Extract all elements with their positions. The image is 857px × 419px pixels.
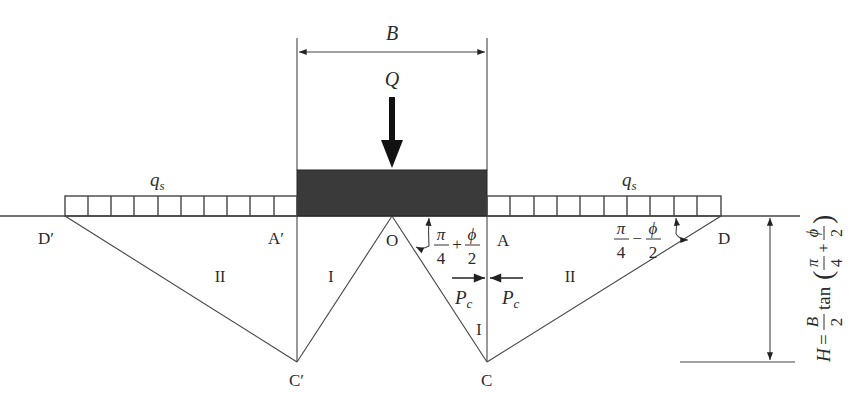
svg-text:H: H bbox=[813, 347, 834, 363]
zone-I-right: I bbox=[476, 321, 481, 338]
label-Pc-left: Pc bbox=[454, 287, 473, 311]
label-B: B bbox=[386, 22, 398, 44]
height-formula: H = B 2 tan ( π 4 + ϕ 2 ) bbox=[803, 215, 846, 363]
angle-marker-passive bbox=[676, 218, 688, 240]
svg-text:π: π bbox=[804, 258, 821, 267]
svg-text:ϕ: ϕ bbox=[649, 219, 658, 238]
zone-II-right: II bbox=[565, 268, 576, 285]
zone-I-left: I bbox=[328, 268, 333, 285]
angle-label-wedge: π 4 + ϕ 2 bbox=[434, 225, 480, 268]
label-C-prime: C′ bbox=[289, 371, 304, 390]
label-qs-left: qs bbox=[150, 169, 165, 193]
label-qs-right: qs bbox=[622, 169, 637, 193]
svg-text:2: 2 bbox=[828, 229, 845, 237]
dimension-H bbox=[680, 218, 795, 362]
surcharge-left: qs bbox=[65, 169, 297, 216]
svg-text:π: π bbox=[437, 225, 446, 244]
svg-text:2: 2 bbox=[468, 249, 477, 268]
label-Pc-right: Pc bbox=[501, 287, 520, 311]
label-D: D bbox=[718, 229, 730, 248]
svg-text:): ) bbox=[807, 215, 838, 224]
svg-text:(: ( bbox=[807, 271, 838, 280]
svg-text:π: π bbox=[617, 219, 626, 238]
label-C: C bbox=[481, 371, 492, 390]
label-Q: Q bbox=[385, 68, 400, 90]
footing-block bbox=[297, 170, 487, 216]
label-O: O bbox=[386, 231, 398, 250]
failure-mechanism-diagram: B Q qs qs bbox=[0, 0, 857, 419]
svg-text:−: − bbox=[632, 229, 642, 248]
svg-text:4: 4 bbox=[437, 249, 446, 268]
angle-label-passive: π 4 − ϕ 2 bbox=[614, 219, 661, 262]
zone-II-left: II bbox=[215, 268, 226, 285]
angle-marker-wedge bbox=[416, 218, 429, 248]
svg-text:+: + bbox=[452, 235, 462, 254]
load-arrow-Q: Q bbox=[381, 68, 403, 168]
svg-text:2: 2 bbox=[827, 318, 846, 327]
svg-text:=: = bbox=[813, 334, 834, 345]
svg-text:tan: tan bbox=[813, 286, 834, 310]
svg-text:B: B bbox=[803, 316, 822, 327]
svg-text:+: + bbox=[815, 243, 832, 252]
label-A-prime: A′ bbox=[268, 229, 284, 248]
svg-text:ϕ: ϕ bbox=[804, 229, 822, 237]
label-D-prime: D′ bbox=[38, 229, 54, 248]
svg-text:2: 2 bbox=[649, 243, 658, 262]
svg-text:4: 4 bbox=[828, 259, 845, 267]
surcharge-right: qs bbox=[487, 169, 721, 216]
svg-text:ϕ: ϕ bbox=[468, 225, 477, 244]
label-A: A bbox=[497, 231, 510, 250]
svg-text:4: 4 bbox=[617, 243, 626, 262]
